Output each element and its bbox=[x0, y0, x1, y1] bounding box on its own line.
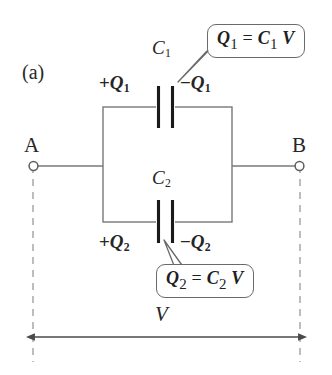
callout-q2-lhs: Q bbox=[166, 268, 179, 288]
capacitor-c1-symbol: C bbox=[152, 37, 165, 58]
charge-label-q1-negative: −Q1 bbox=[180, 73, 211, 94]
q2-negative-symbol: Q bbox=[191, 231, 205, 252]
callout-q2-rhs: C bbox=[207, 268, 219, 288]
q2-negative-subscript: 2 bbox=[205, 241, 211, 254]
callout-q1-operator: = bbox=[243, 28, 253, 48]
callout-q2-equation: Q2 = C2 V bbox=[156, 264, 254, 298]
charge-label-q2-negative: −Q2 bbox=[180, 232, 211, 253]
capacitor-c2-symbol: C bbox=[152, 167, 165, 188]
terminal-b-label: B bbox=[292, 135, 306, 156]
capacitor-c1-subscript: 1 bbox=[165, 47, 171, 60]
callout-q2-rhs-factor: V bbox=[231, 268, 243, 288]
callout-q1-rhs: C bbox=[258, 28, 270, 48]
callout-q2-lhs-sub: 2 bbox=[179, 276, 187, 292]
q1-positive-subscript: 1 bbox=[124, 82, 130, 95]
charge-label-q2-positive: +Q2 bbox=[99, 232, 130, 253]
terminal-a-node bbox=[29, 162, 38, 171]
capacitor-parallel-figure: (a) C1 C2 +Q1 −Q1 +Q2 −Q2 A B V Q1 = C1 … bbox=[0, 0, 332, 375]
circuit-loop-rectangle bbox=[103, 107, 232, 222]
callout-q2-operator: = bbox=[192, 268, 202, 288]
capacitor-c2-subscript: 2 bbox=[165, 177, 171, 190]
terminal-b-node bbox=[295, 162, 304, 171]
capacitor-c1-label: C1 bbox=[152, 38, 171, 59]
q1-negative-symbol: Q bbox=[191, 72, 205, 93]
callout-q2-rhs-sub: 2 bbox=[219, 276, 227, 292]
panel-label: (a) bbox=[22, 62, 44, 82]
terminal-a-label: A bbox=[24, 135, 39, 156]
charge-label-q1-positive: +Q1 bbox=[99, 73, 130, 94]
callout-q1-rhs-sub: 1 bbox=[270, 36, 278, 52]
callout-q1-lhs: Q bbox=[217, 28, 230, 48]
q1-negative-sign: − bbox=[180, 72, 191, 93]
q1-positive-sign: + bbox=[99, 72, 110, 93]
q2-positive-sign: + bbox=[99, 231, 110, 252]
q2-negative-sign: − bbox=[180, 231, 191, 252]
q2-positive-symbol: Q bbox=[110, 231, 124, 252]
callout-q1-equation: Q1 = C1 V bbox=[207, 24, 305, 58]
q2-positive-subscript: 2 bbox=[124, 241, 130, 254]
q1-negative-subscript: 1 bbox=[205, 82, 211, 95]
callout-q1-rhs-factor: V bbox=[282, 28, 294, 48]
callout-q1-lhs-sub: 1 bbox=[230, 36, 238, 52]
voltage-span-label: V bbox=[155, 304, 168, 325]
voltage-symbol: V bbox=[155, 302, 168, 326]
capacitor-c2-label: C2 bbox=[152, 168, 171, 189]
q1-positive-symbol: Q bbox=[110, 72, 124, 93]
